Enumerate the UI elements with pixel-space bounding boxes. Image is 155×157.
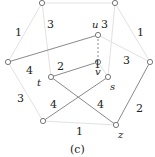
figure-caption: (c)	[70, 143, 85, 156]
edge-right-z	[116, 62, 150, 125]
node-right	[147, 59, 152, 64]
node-bottom-left	[40, 118, 45, 123]
edge-weight-right-z: 2	[136, 102, 143, 115]
node-label-u: u	[92, 19, 98, 30]
node-t	[48, 74, 53, 79]
node-label-s: s	[110, 81, 115, 92]
edge-tl-t	[42, 3, 51, 77]
edge-weight-left-u: 4	[26, 64, 33, 77]
edge-weight-u-right: 3	[123, 54, 130, 67]
node-top-right	[112, 0, 117, 5]
edge-weight-v-s: 1	[94, 58, 101, 71]
edge-weight-t-v: 2	[57, 60, 64, 73]
node-top-left	[39, 0, 44, 5]
edge-t-z	[51, 77, 116, 125]
node-label-z: z	[117, 129, 124, 140]
edge-weight-tr-s: 3	[101, 18, 108, 31]
edge-weight-tl-left: 1	[15, 26, 22, 39]
node-u	[95, 32, 100, 37]
edge-weight-tr-right: 1	[137, 26, 144, 39]
strong-edges	[8, 35, 150, 125]
edge-weight-bl-z: 1	[76, 125, 83, 138]
edge-tr-s	[108, 3, 115, 77]
edge-weight-left-bl: 3	[17, 92, 24, 105]
edge-weight-bl-s: 4	[50, 98, 57, 111]
edge-weight-t-z: 4	[97, 98, 104, 111]
edge-weight-tl-t: 3	[47, 18, 54, 31]
node-label-t: t	[37, 77, 42, 88]
node-left	[5, 59, 10, 64]
graph-diagram: u v t s z 1 3 3 1 4 2 1 3 3 4 4 1 2 (c)	[0, 0, 155, 157]
node-s	[105, 74, 110, 79]
node-z	[113, 122, 118, 127]
